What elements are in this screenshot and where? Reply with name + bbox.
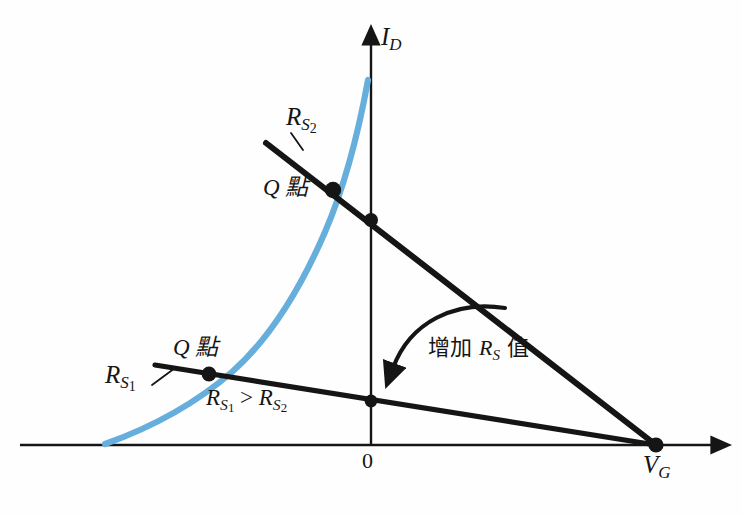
inequality-right-subscript: S — [273, 396, 281, 413]
q-point-upper-label: Q 點 — [263, 176, 308, 199]
q-point-upper-marker — [325, 182, 341, 198]
inequality-right-subscript-index: 2 — [281, 401, 287, 415]
y-intercept-upper-marker — [364, 213, 378, 227]
rs1-label-subscript: S — [120, 373, 129, 392]
q-point-lower-label: Q 點 — [173, 336, 218, 359]
rs1-label: RS1 — [105, 362, 136, 394]
rs-inequality-label: RS1 > RS2 — [206, 386, 287, 415]
increase-rs-label: 增加 RS 值 — [428, 337, 529, 363]
figure-canvas: ID VG 0 RS2 RS1 Q 點 Q 點 RS1 > RS2 增加 RS … — [0, 0, 742, 516]
origin-label: 0 — [362, 450, 373, 472]
x-axis-vg-label-subscript: G — [658, 463, 670, 482]
diagram-svg — [0, 0, 742, 516]
rs2-label-subscript: S — [301, 115, 310, 134]
y-intercept-lower-marker — [365, 395, 378, 408]
increase-rs-suffix-text: 值 — [500, 335, 529, 360]
rs2-label-subscript-index: 2 — [310, 121, 317, 136]
rs1-label-subscript-index: 1 — [129, 379, 136, 394]
rs1-leader-line — [152, 368, 175, 385]
increase-rs-symbol-subscript: S — [492, 347, 499, 363]
increase-rs-prefix-text: 增加 — [428, 335, 479, 360]
load-line-rs2 — [266, 143, 656, 445]
y-axis-label: ID — [381, 24, 402, 53]
q-point-lower-marker — [202, 367, 217, 382]
increase-rs-symbol: R — [479, 335, 492, 360]
rs2-label: RS2 — [286, 104, 317, 136]
y-axis-label-subscript: D — [389, 35, 401, 54]
x-axis-vg-label: VG — [643, 452, 671, 481]
inequality-left-subscript: S — [220, 396, 228, 413]
inequality-operator: > — [234, 385, 258, 410]
